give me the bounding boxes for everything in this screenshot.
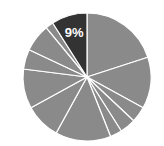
pie-chart: 9% [0,0,164,146]
slice-value-label: 9% [65,25,84,40]
pie-labels: 9% [65,25,84,40]
pie-slices [23,13,151,141]
